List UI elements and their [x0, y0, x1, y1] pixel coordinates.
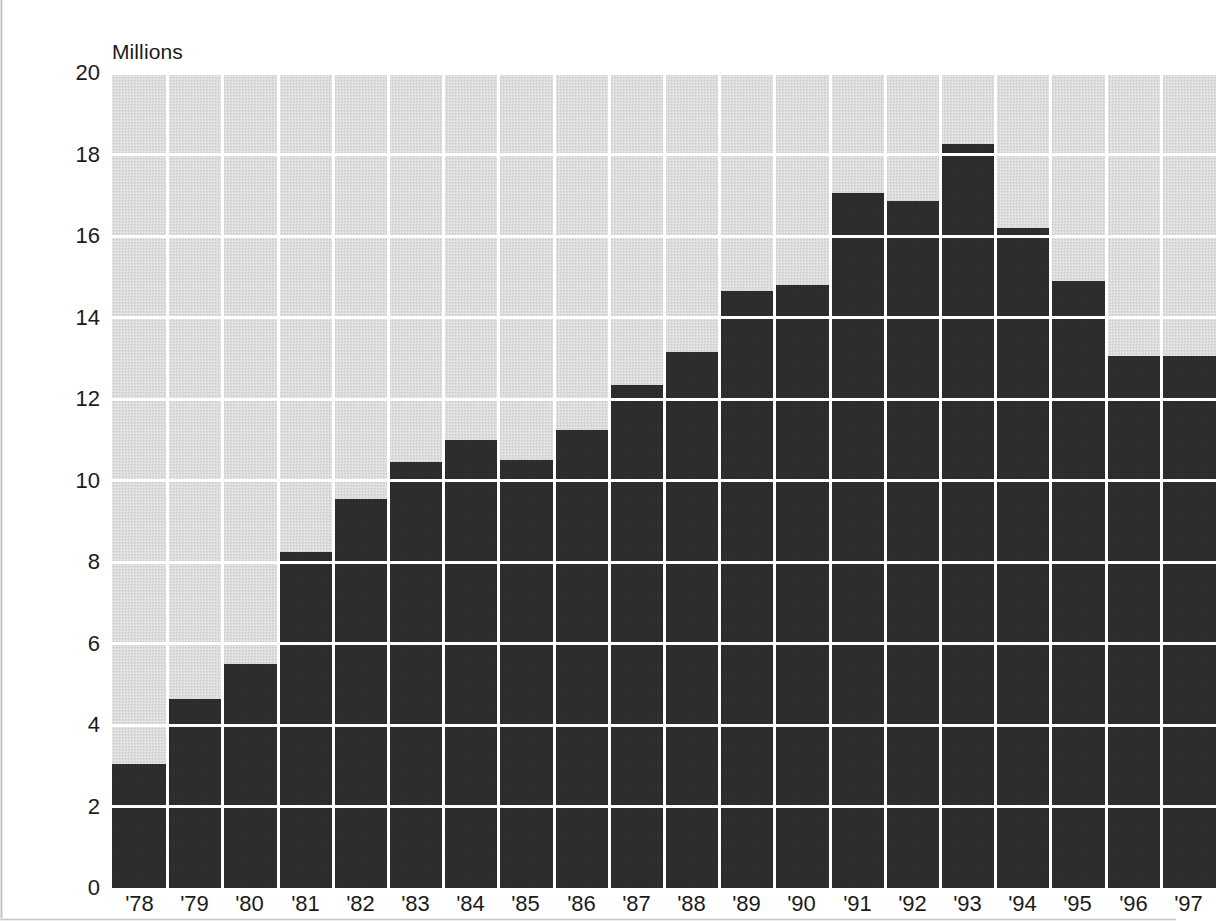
- y-axis-tick-label: 2: [50, 796, 100, 818]
- gridline-vertical: [1105, 73, 1108, 888]
- y-axis-tick-label: 12: [50, 388, 100, 410]
- bar: [830, 193, 885, 888]
- x-axis-tick-label: '94: [995, 893, 1050, 915]
- x-axis-tick-label: '93: [940, 893, 995, 915]
- bar: [1106, 356, 1161, 888]
- y-axis-tick-label: 14: [50, 307, 100, 329]
- gridline-vertical: [608, 73, 611, 888]
- y-axis-tick-label: 8: [50, 551, 100, 573]
- y-axis-tick-label: 6: [50, 633, 100, 655]
- bar: [222, 664, 277, 888]
- x-axis-tick-label: '83: [388, 893, 443, 915]
- x-axis-tick-label: '95: [1050, 893, 1105, 915]
- x-axis-tick-label: '82: [333, 893, 388, 915]
- bar: [333, 499, 388, 888]
- bar: [388, 462, 443, 888]
- bar: [885, 201, 940, 888]
- y-axis-tick-label: 18: [50, 144, 100, 166]
- plot-area: [112, 73, 1216, 888]
- x-axis-tick-label: '97: [1161, 893, 1216, 915]
- gridline-vertical: [884, 73, 887, 888]
- bar: [443, 440, 498, 888]
- gridline-vertical: [663, 73, 666, 888]
- bar: [498, 460, 553, 888]
- x-axis-tick-label: '80: [222, 893, 277, 915]
- x-axis-tick-label: '91: [830, 893, 885, 915]
- gridline-vertical: [277, 73, 280, 888]
- y-axis-tick-label: 4: [50, 714, 100, 736]
- x-axis-tick-label: '84: [443, 893, 498, 915]
- bar: [167, 699, 222, 888]
- bar: [995, 228, 1050, 888]
- x-axis-tick-label: '86: [554, 893, 609, 915]
- gridline-vertical: [1160, 73, 1163, 888]
- x-axis-tick-label: '96: [1106, 893, 1161, 915]
- bar: [278, 552, 333, 888]
- gridline-vertical: [553, 73, 556, 888]
- y-axis-tick-label: 16: [50, 225, 100, 247]
- gridline-vertical: [166, 73, 169, 888]
- bar: [112, 764, 167, 888]
- x-axis: '78'79'80'81'82'83'84'85'86'87'88'89'90'…: [112, 893, 1216, 921]
- gridline-vertical: [718, 73, 721, 888]
- bar: [1161, 356, 1216, 888]
- gridline-vertical: [773, 73, 776, 888]
- x-axis-tick-label: '81: [278, 893, 333, 915]
- x-axis-tick-label: '88: [664, 893, 719, 915]
- x-axis-tick-label: '79: [167, 893, 222, 915]
- gridline-vertical: [442, 73, 445, 888]
- gridline-vertical: [939, 73, 942, 888]
- gridline-vertical: [1049, 73, 1052, 888]
- x-axis-tick-label: '87: [609, 893, 664, 915]
- y-axis-tick-label: 20: [50, 62, 100, 84]
- x-axis-tick-label: '90: [774, 893, 829, 915]
- page-left-edge-rule: [0, 0, 3, 921]
- bar-chart-figure: Millions 02468101214161820 '78'79'80'81'…: [40, 16, 1216, 921]
- gridline-vertical: [387, 73, 390, 888]
- bar: [719, 291, 774, 888]
- bar: [774, 285, 829, 888]
- x-axis-tick-label: '92: [885, 893, 940, 915]
- bar: [940, 144, 995, 888]
- gridline-vertical: [829, 73, 832, 888]
- x-axis-tick-label: '89: [719, 893, 774, 915]
- bar: [1050, 281, 1105, 888]
- x-axis-tick-label: '85: [498, 893, 553, 915]
- bar: [609, 385, 664, 888]
- y-axis-tick-label: 0: [50, 877, 100, 899]
- gridline-vertical: [994, 73, 997, 888]
- gridline-vertical: [497, 73, 500, 888]
- y-axis-tick-label: 10: [50, 470, 100, 492]
- gridline-vertical: [332, 73, 335, 888]
- gridline-vertical: [221, 73, 224, 888]
- x-axis-tick-label: '78: [112, 893, 167, 915]
- bar: [554, 430, 609, 888]
